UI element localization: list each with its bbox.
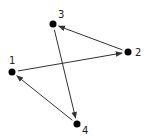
edges (17, 26, 123, 120)
node-1 (9, 69, 16, 76)
node-2 (125, 49, 132, 56)
node-label-4: 4 (82, 125, 88, 136)
edge-1-to-2 (18, 53, 122, 71)
edge-3-to-4 (54, 30, 75, 118)
directed-graph: 1234 (0, 0, 147, 136)
node-4 (74, 121, 81, 128)
edge-4-to-1 (17, 76, 73, 121)
node-3 (50, 21, 57, 28)
node-label-3: 3 (58, 9, 64, 20)
node-label-2: 2 (135, 47, 141, 58)
node-label-1: 1 (9, 55, 15, 66)
edge-2-to-3 (59, 26, 123, 50)
